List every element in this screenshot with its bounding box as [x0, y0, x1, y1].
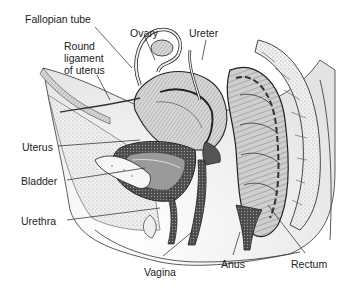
label-ovary: Ovary [130, 27, 158, 39]
label-bladder: Bladder [21, 175, 57, 187]
label-vagina: Vagina [144, 266, 176, 278]
label-round-ligament: Round ligament of uterus [64, 40, 105, 76]
ovary-shape [151, 40, 173, 56]
label-uterus: Uterus [22, 141, 53, 153]
label-urethra: Urethra [21, 215, 56, 227]
label-rectum: Rectum [291, 258, 327, 270]
label-anus: Anus [221, 258, 245, 270]
label-ureter: Ureter [189, 27, 218, 39]
anatomy-diagram: Fallopian tube Ovary Ureter Round ligame… [0, 0, 351, 291]
label-fallopian-tube: Fallopian tube [25, 13, 91, 25]
